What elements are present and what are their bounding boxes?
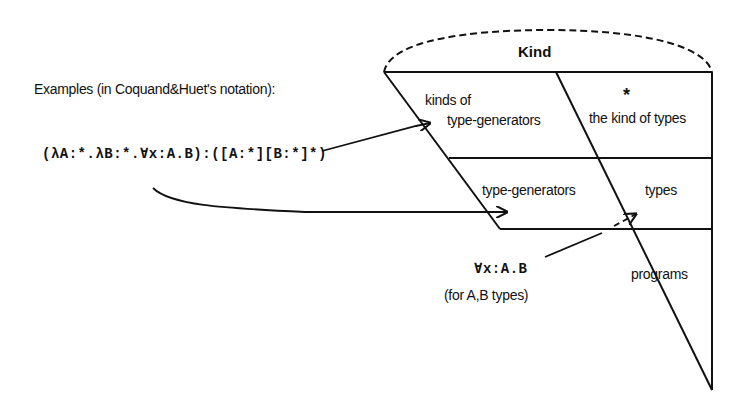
forall-note: (for A,B types) [444,288,528,302]
type-generators-kind-label: type-generators [447,113,541,127]
kind-of-types-label: the kind of types [589,111,686,125]
lambda-expression: (λA:*.λB:*.∀x:A.B):([A:*][B:*]*) [42,147,327,161]
forall-expression: ∀x:A.B [474,262,527,276]
diagram-lines [0,0,756,412]
examples-heading: Examples (in Coquand&Huet's notation): [34,82,275,96]
kinds-of-label: kinds of [425,93,471,107]
kind-label: Kind [518,44,551,59]
arrow-to-type-generators [153,188,507,212]
arrow-to-types-head [614,214,636,226]
types-label: types [645,183,677,197]
star-symbol: * [623,86,630,104]
type-generators-label: type-generators [482,183,576,197]
diagram-canvas: Examples (in Coquand&Huet's notation): (… [0,0,756,412]
programs-label: programs [631,267,688,281]
arrow-to-kinds-of-type-generators [322,123,430,151]
arrow-to-types [545,233,602,257]
